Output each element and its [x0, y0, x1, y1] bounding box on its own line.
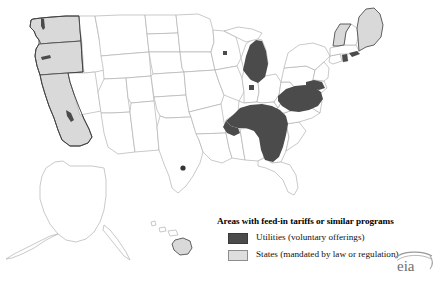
- state-arizona: [101, 112, 135, 154]
- legend-item-utilities: Utilities (voluntary offerings): [217, 232, 432, 244]
- utility-area-texas: [180, 165, 185, 170]
- hawaii-big-island: [172, 238, 192, 255]
- state-montana: [95, 15, 149, 56]
- hawaii-kauai: [151, 221, 156, 226]
- eia-logo: eia: [392, 247, 436, 277]
- state-new-mexico: [130, 101, 159, 152]
- eia-logo-text: eia: [397, 258, 415, 274]
- alaska-southeast: [103, 225, 130, 260]
- state-utah: [98, 78, 130, 113]
- alaska-peninsula: [6, 234, 58, 259]
- state-north-dakota: [145, 15, 178, 34]
- legend-label-states: States (mandated by law or regulation): [256, 249, 399, 261]
- state-kansas: [151, 72, 186, 97]
- feed-in-tariff-map-figure: Areas with feed-in tariffs or similar pr…: [0, 0, 439, 299]
- state-florida: [258, 158, 298, 195]
- eia-logo-mark: eia: [392, 247, 436, 277]
- legend-title: Areas with feed-in tariffs or similar pr…: [217, 216, 432, 226]
- hawaii-oahu: [159, 227, 166, 232]
- utility-area-wisconsin: [223, 51, 227, 55]
- legend-swatch-utilities-icon: [228, 233, 248, 244]
- state-iowa: [180, 52, 215, 72]
- state-colorado: [126, 76, 154, 103]
- utility-area-rhode-island: [342, 54, 348, 62]
- state-south-dakota: [147, 33, 180, 52]
- state-wyoming: [101, 52, 151, 79]
- state-oklahoma: [154, 95, 191, 118]
- legend-label-utilities: Utilities (voluntary offerings): [256, 232, 365, 244]
- state-washington: [30, 16, 81, 44]
- legend-swatch-states-icon: [228, 250, 248, 261]
- utility-area-indiana: [249, 85, 254, 90]
- state-south-carolina: [286, 122, 306, 151]
- state-minnesota: [176, 14, 214, 52]
- state-nebraska: [149, 52, 184, 74]
- state-maine: [357, 8, 383, 51]
- state-alaska: [40, 161, 106, 242]
- hawaii-maui: [168, 230, 178, 236]
